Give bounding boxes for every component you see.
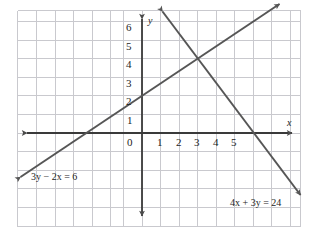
y-axis-label: y [148, 16, 152, 26]
y-tick-6: 6 [126, 22, 132, 33]
x-tick-4: 4 [213, 137, 219, 148]
x-tick-1: 1 [157, 137, 163, 148]
origin-tick-0: 0 [127, 137, 133, 148]
y-tick-2: 2 [126, 96, 132, 107]
x-tick-2: 2 [176, 137, 182, 148]
equation-label-line1: 3y − 2x = 6 [31, 172, 77, 182]
graph-figure: 6 5 4 3 2 1 0 1 2 3 4 5 y x 3y − 2x = 6 … [0, 0, 320, 238]
y-tick-4: 4 [126, 59, 132, 70]
y-tick-3: 3 [126, 78, 132, 89]
x-tick-3: 3 [194, 137, 200, 148]
x-tick-5: 5 [231, 137, 237, 148]
x-axis-label: x [287, 118, 291, 128]
y-tick-1: 1 [127, 115, 133, 126]
equation-label-line2: 4x + 3y = 24 [230, 198, 281, 208]
y-tick-5: 5 [126, 41, 132, 52]
